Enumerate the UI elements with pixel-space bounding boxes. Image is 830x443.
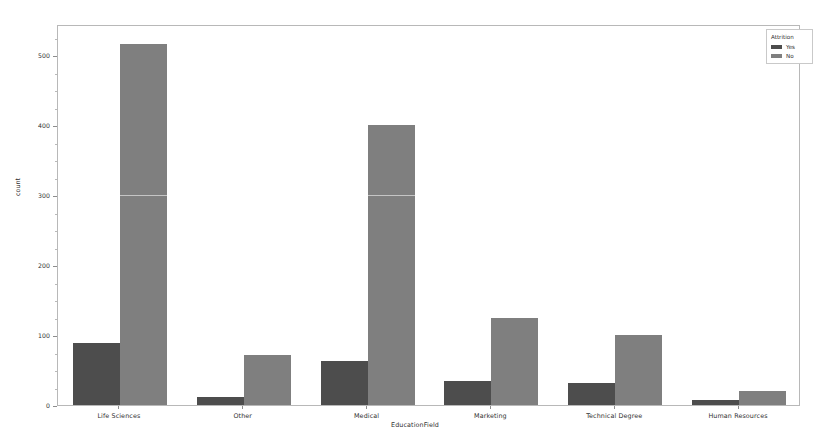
legend-entry-label: No <box>786 52 794 60</box>
legend-title: Attrition <box>771 33 808 41</box>
bar-yes <box>73 343 120 405</box>
y-axis: 0100200300400500 <box>0 25 57 406</box>
x-tick-mark <box>738 406 739 409</box>
x-tick-mark <box>242 406 243 409</box>
legend-swatch-icon <box>771 45 782 49</box>
legend: Attrition YesNo <box>766 29 813 64</box>
y-tick-label: 500 <box>38 51 50 60</box>
bar-yes <box>197 397 244 405</box>
bar-yes <box>444 381 491 405</box>
y-tick-label: 100 <box>38 331 50 340</box>
y-axis-title: count <box>14 178 22 196</box>
x-tick-mark <box>118 406 119 409</box>
x-tick-label: Medical <box>354 412 379 421</box>
y-tick-label: 300 <box>38 191 50 200</box>
x-tick-label: Life Sciences <box>97 412 140 421</box>
plot-area <box>57 25 800 406</box>
x-tick-label: Technical Degree <box>586 412 642 421</box>
bar-yes <box>568 383 615 405</box>
render-artifact-line <box>368 195 415 196</box>
bar-no <box>244 355 291 405</box>
bar-yes <box>321 361 368 405</box>
figure-canvas: 0100200300400500 count Life SciencesOthe… <box>0 0 830 443</box>
bar-no <box>368 125 415 405</box>
x-tick-label: Marketing <box>474 412 507 421</box>
y-tick-label: 0 <box>46 401 50 410</box>
y-tick-label: 400 <box>38 121 50 130</box>
legend-entry-yes: Yes <box>771 42 808 51</box>
legend-entries: YesNo <box>771 42 808 60</box>
y-tick-label: 200 <box>38 261 50 270</box>
bar-no <box>491 318 538 405</box>
x-axis-title: EducationField <box>0 421 830 429</box>
x-tick-mark <box>366 406 367 409</box>
bar-yes <box>692 400 739 405</box>
render-artifact-line <box>120 195 167 196</box>
legend-entry-no: No <box>771 51 808 60</box>
x-tick-mark <box>614 406 615 409</box>
legend-entry-label: Yes <box>786 43 795 51</box>
x-tick-label: Other <box>233 412 252 421</box>
bar-no <box>615 335 662 405</box>
x-tick-mark <box>490 406 491 409</box>
bar-no <box>739 391 786 405</box>
legend-swatch-icon <box>771 54 782 58</box>
bar-no <box>120 44 167 405</box>
x-tick-label: Human Resources <box>708 412 767 421</box>
